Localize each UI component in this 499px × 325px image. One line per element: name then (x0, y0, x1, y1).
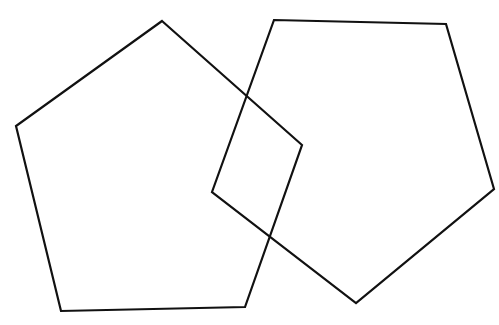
right-pentagon (212, 20, 494, 303)
diagram-canvas (0, 0, 499, 325)
diagram-svg (0, 0, 499, 325)
